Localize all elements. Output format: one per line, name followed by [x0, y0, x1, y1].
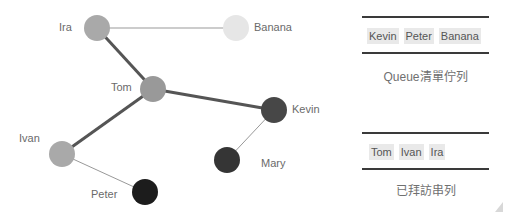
node-ira	[84, 15, 110, 41]
node-label-mary: Mary	[261, 157, 285, 169]
edge-tom-ivan	[62, 89, 153, 154]
graph-edges	[62, 28, 274, 192]
resize-grip-icon[interactable]	[495, 202, 503, 212]
edge-tom-kevin	[153, 89, 274, 110]
visited-item: Ira	[429, 144, 446, 160]
queue-bottom-divider	[362, 52, 489, 54]
visited-list: Tom Ivan Ira	[369, 144, 445, 160]
visited-item: Tom	[369, 144, 394, 160]
node-label-kevin: Kevin	[292, 103, 320, 115]
queue-item: Kevin	[367, 28, 399, 44]
visited-bottom-divider	[362, 168, 489, 170]
graph-nodes	[49, 15, 287, 205]
queue-caption: Queue清單佇列	[362, 67, 489, 84]
queue-item: Peter	[404, 28, 434, 44]
queue-item: Banana	[439, 28, 481, 44]
node-tom	[140, 76, 166, 102]
node-kevin	[261, 97, 287, 123]
node-banana	[223, 15, 249, 41]
visited-item: Ivan	[399, 144, 424, 160]
queue-list: Kevin Peter Banana	[367, 28, 481, 44]
node-mary	[214, 147, 240, 173]
visited-top-divider	[362, 132, 489, 134]
node-label-ira: Ira	[59, 21, 72, 33]
node-ivan	[49, 141, 75, 167]
edge-ivan-peter	[62, 154, 145, 192]
node-label-banana: Banana	[254, 21, 292, 33]
node-label-peter: Peter	[91, 188, 117, 200]
node-peter	[132, 179, 158, 205]
visited-caption: 已拜訪串列	[362, 181, 489, 198]
node-label-ivan: Ivan	[19, 132, 40, 144]
node-label-tom: Tom	[111, 81, 132, 93]
queue-top-divider	[362, 16, 489, 18]
